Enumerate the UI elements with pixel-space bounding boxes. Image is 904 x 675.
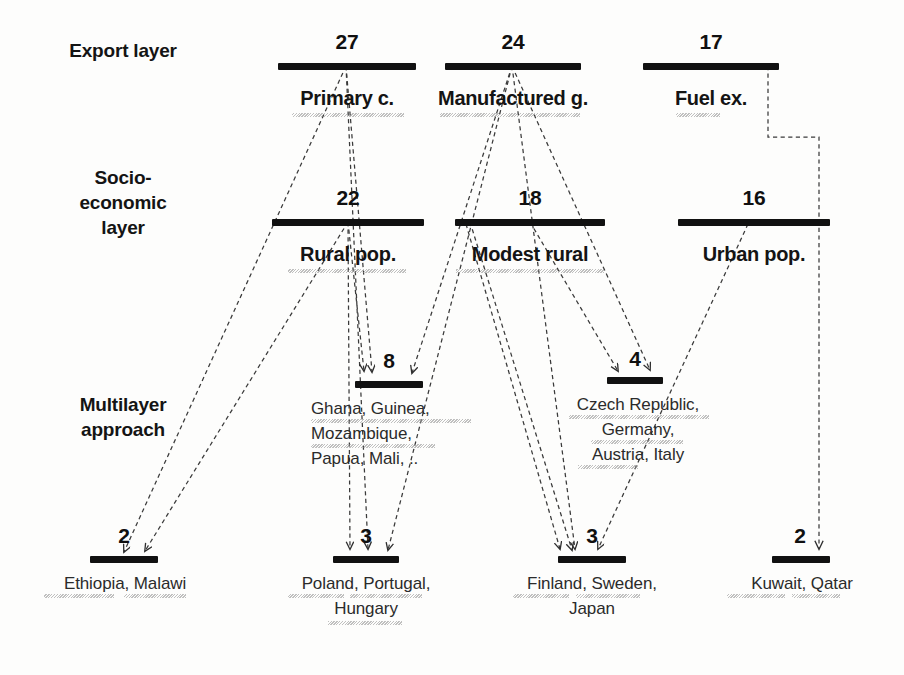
node-count: 4 bbox=[612, 347, 658, 371]
spellcheck-squiggle bbox=[328, 621, 402, 625]
node-bar bbox=[772, 556, 830, 563]
spellcheck-squiggle bbox=[591, 440, 683, 444]
edge-urban-pop-to-finland bbox=[598, 224, 748, 549]
spellcheck-squiggle bbox=[124, 594, 186, 598]
spellcheck-squiggle bbox=[576, 594, 640, 598]
node-countries: Czech Republic, Germany, Austria, Italy bbox=[555, 392, 721, 467]
node-name: Fuel ex. bbox=[643, 87, 779, 110]
node-count: 16 bbox=[678, 186, 830, 210]
node-count: 22 bbox=[272, 186, 424, 210]
node-count: 3 bbox=[569, 524, 615, 548]
node-bar bbox=[355, 381, 423, 388]
spellcheck-squiggle bbox=[288, 594, 344, 598]
node-count: 24 bbox=[445, 30, 581, 54]
node-name: Rural pop. bbox=[272, 243, 424, 266]
edge-manufactured-g-to-finland bbox=[512, 66, 575, 549]
node-bar bbox=[455, 219, 605, 226]
spellcheck-squiggle bbox=[350, 594, 422, 598]
spellcheck-squiggle bbox=[727, 594, 785, 598]
node-bar bbox=[558, 556, 626, 563]
spellcheck-squiggle bbox=[578, 465, 638, 469]
spellcheck-squiggle bbox=[792, 594, 840, 598]
spellcheck-squiggle bbox=[44, 594, 114, 598]
diagram-canvas: Export layer Socio- economic layer Multi… bbox=[0, 0, 904, 675]
node-count: 2 bbox=[101, 524, 147, 548]
node-bar bbox=[643, 63, 779, 70]
spellcheck-squiggle bbox=[311, 444, 435, 448]
spellcheck-squiggle bbox=[513, 594, 569, 598]
node-count: 3 bbox=[343, 524, 389, 548]
spellcheck-squiggle bbox=[440, 113, 580, 117]
node-bar bbox=[272, 219, 424, 226]
spellcheck-squiggle bbox=[288, 269, 406, 273]
edge-manufactured-g-to-poland bbox=[388, 66, 512, 550]
row-label-socio-economic-layer: Socio- economic layer bbox=[28, 165, 218, 240]
node-bar bbox=[333, 556, 399, 563]
node-name: Primary c. bbox=[278, 87, 416, 110]
node-count: 27 bbox=[278, 30, 416, 54]
spellcheck-squiggle bbox=[456, 269, 604, 273]
edge-primary-c-to-ethiopia bbox=[124, 66, 346, 552]
node-bar bbox=[607, 377, 663, 384]
node-count: 2 bbox=[777, 524, 823, 548]
node-countries: Ethiopia, Malawi bbox=[34, 571, 216, 596]
node-bar bbox=[445, 63, 581, 70]
node-name: Manufactured g. bbox=[434, 87, 592, 110]
spellcheck-squiggle bbox=[311, 419, 471, 423]
edge-primary-c-to-poland bbox=[346, 66, 368, 549]
node-name: Urban pop. bbox=[678, 243, 830, 266]
node-bar bbox=[90, 556, 158, 563]
node-bar bbox=[278, 63, 416, 70]
spellcheck-squiggle bbox=[676, 113, 720, 117]
node-countries: Kuwait, Qatar bbox=[716, 571, 888, 596]
node-count: 18 bbox=[455, 186, 605, 210]
node-countries: Ghana, Guinea, Mozambique, Papua, Mali, … bbox=[311, 396, 479, 471]
node-count: 17 bbox=[643, 30, 779, 54]
row-label-export-layer: Export layer bbox=[28, 38, 218, 63]
edge-manufactured-g-to-czech bbox=[512, 66, 650, 370]
node-name: Modest rural bbox=[450, 243, 610, 266]
row-label-multilayer-approach: Multilayer approach bbox=[28, 392, 218, 442]
spellcheck-squiggle bbox=[569, 415, 709, 419]
node-bar bbox=[678, 219, 830, 226]
spellcheck-squiggle bbox=[292, 113, 404, 117]
node-count: 8 bbox=[366, 349, 412, 373]
edge-fuel-ex-to-kuwait bbox=[768, 66, 819, 549]
